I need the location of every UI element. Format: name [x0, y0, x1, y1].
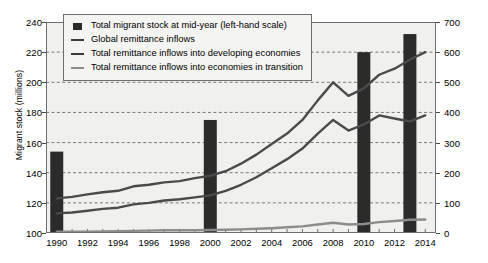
- x-tick-2006: 2006: [292, 237, 313, 248]
- y-tick-right-400: 400: [444, 107, 460, 118]
- y-tick-right-100: 100: [444, 197, 460, 208]
- x-tick-1990: 1990: [46, 237, 67, 248]
- legend-item-developing: Total remittance inflows into developing…: [70, 47, 303, 61]
- legend-item-global: Global remittance inflows: [70, 33, 303, 47]
- y-tick-mark-right: [436, 22, 440, 23]
- migrant-stock-remittance-chart: Migrant stock (millions) Remittance infl…: [0, 0, 488, 263]
- y-tick-mark-right: [436, 173, 440, 174]
- y-tick-left-100: 100: [26, 228, 42, 239]
- y-tick-mark-left: [42, 82, 46, 83]
- y-tick-left-120: 120: [26, 197, 42, 208]
- x-tick-1992: 1992: [77, 237, 98, 248]
- y-tick-right-500: 500: [444, 77, 460, 88]
- x-tick-2000: 2000: [200, 237, 221, 248]
- y-tick-left-180: 180: [26, 107, 42, 118]
- y-axis-left-ticks: 100120140160180200220240: [0, 0, 42, 263]
- legend-label-bars: Total migrant stock at mid-year (left-ha…: [91, 21, 287, 30]
- y-tick-mark-right: [436, 233, 440, 234]
- y-tick-right-700: 700: [444, 17, 460, 28]
- x-tick-2008: 2008: [323, 237, 344, 248]
- chart-legend: Total migrant stock at mid-year (left-ha…: [63, 14, 312, 81]
- y-tick-mark-left: [42, 233, 46, 234]
- y-tick-mark-right: [436, 143, 440, 144]
- x-tick-1996: 1996: [138, 237, 159, 248]
- y-tick-right-200: 200: [444, 167, 460, 178]
- y-tick-mark-right: [436, 112, 440, 113]
- y-tick-mark-left: [42, 22, 46, 23]
- y-tick-left-140: 140: [26, 167, 42, 178]
- y-tick-mark-left: [42, 112, 46, 113]
- x-tick-1994: 1994: [108, 237, 129, 248]
- x-tick-2014: 2014: [415, 237, 436, 248]
- y-tick-left-220: 220: [26, 47, 42, 58]
- x-tick-2004: 2004: [261, 237, 282, 248]
- line-swatch-icon: [70, 39, 85, 42]
- legend-item-transition: Total remittance inflows into economies …: [70, 61, 303, 75]
- bar-swatch-icon: [70, 23, 85, 30]
- y-tick-mark-left: [42, 173, 46, 174]
- legend-label-developing: Total remittance inflows into developing…: [91, 49, 300, 58]
- y-tick-mark-right: [436, 52, 440, 53]
- y-tick-mark-right: [436, 82, 440, 83]
- y-tick-right-0: 0: [444, 228, 449, 239]
- line-swatch-icon: [70, 53, 85, 56]
- x-tick-2012: 2012: [384, 237, 405, 248]
- legend-label-transition: Total remittance inflows into economies …: [91, 63, 303, 72]
- x-tick-2010: 2010: [353, 237, 374, 248]
- y-tick-mark-right: [436, 203, 440, 204]
- y-tick-left-160: 160: [26, 137, 42, 148]
- y-tick-mark-left: [42, 52, 46, 53]
- x-tick-1998: 1998: [169, 237, 190, 248]
- x-tick-2002: 2002: [231, 237, 252, 248]
- y-tick-left-200: 200: [26, 77, 42, 88]
- y-tick-left-240: 240: [26, 17, 42, 28]
- line-swatch-icon: [70, 67, 85, 70]
- legend-label-global: Global remittance inflows: [91, 35, 195, 44]
- y-tick-mark-left: [42, 203, 46, 204]
- y-tick-right-600: 600: [444, 47, 460, 58]
- y-axis-right-ticks: 0100200300400500600700: [444, 0, 484, 263]
- y-tick-right-300: 300: [444, 137, 460, 148]
- legend-item-bars: Total migrant stock at mid-year (left-ha…: [70, 19, 303, 33]
- y-tick-mark-left: [42, 143, 46, 144]
